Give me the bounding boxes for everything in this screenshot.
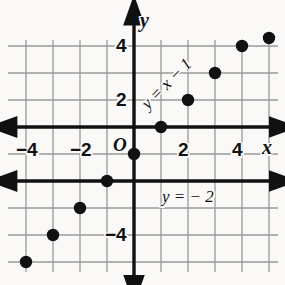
data-point xyxy=(209,67,221,79)
x-tick-label-neg4: −4 xyxy=(16,140,38,159)
y-axis-name: y xyxy=(140,10,149,30)
x-tick-label-neg2: −2 xyxy=(70,140,92,159)
coordinate-plane-figure: −4 −2 2 4 4 2 −4 O x y y = x − 1 y = − 2 xyxy=(0,0,285,285)
data-point xyxy=(74,202,86,214)
x-axis-name: x xyxy=(262,137,272,157)
y-tick-label-neg4: −4 xyxy=(105,225,127,244)
data-point xyxy=(47,229,59,241)
data-point xyxy=(236,40,248,52)
data-point xyxy=(182,94,194,106)
y-tick-label-pos4: 4 xyxy=(116,36,127,55)
data-point xyxy=(128,148,140,160)
data-point xyxy=(263,32,275,44)
data-point xyxy=(101,175,113,187)
origin-label: O xyxy=(113,135,127,154)
x-tick-label-pos2: 2 xyxy=(178,140,189,159)
data-point xyxy=(155,121,167,133)
y-tick-label-pos2: 2 xyxy=(116,90,127,109)
data-point xyxy=(20,256,32,268)
x-tick-label-pos4: 4 xyxy=(232,140,243,159)
horizontal-equation-label: y = − 2 xyxy=(162,188,214,205)
